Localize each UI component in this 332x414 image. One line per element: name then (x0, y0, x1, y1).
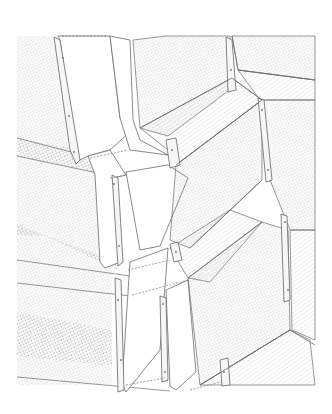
facade-svg (0, 0, 332, 414)
facade-drawing (0, 0, 332, 414)
